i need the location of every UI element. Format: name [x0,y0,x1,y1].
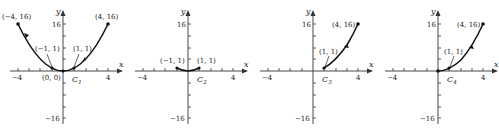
x-axis-arrow-icon [492,69,498,74]
label-4-16: (4, 16) [95,13,119,21]
y-axis-arrow-icon [436,10,441,16]
x-tick-label-4: 4 [481,74,486,82]
point-4-16 [481,22,485,26]
x-tick-label-4: 4 [231,74,236,82]
curve-label-c1: C1 [72,75,82,85]
point-4-16 [356,22,360,26]
label-0-0: (0, 0) [42,74,61,82]
y-axis-label: y [55,7,61,16]
point-neg4-16 [16,22,20,26]
label-1-1: (1, 1) [444,48,463,56]
y-axis-arrow-icon [186,10,191,16]
y-axis-label: y [430,7,436,16]
label-1-1: (1, 1) [197,57,216,65]
curve-label-c4: C4 [447,75,457,85]
y-axis-label: y [180,7,186,16]
y-tick-label-16: 16 [427,21,436,29]
y-tick-label-neg16: −16 [420,115,435,123]
plot-c1: x y −4 4 16 −16 (−4, 16) (4, 16) (−1, 1)… [0,0,125,129]
y-tick-label-neg16: −16 [295,115,310,123]
label-1-1: (1, 1) [319,48,338,56]
point-0-0 [62,70,65,73]
plot-c4: x y −4 4 16 −16 (1, 1) (4, 16) C4 [375,0,499,129]
plot-c2: x y −4 4 16 −16 (−1, 1) (1, 1) C2 [125,0,250,129]
point-0-0 [436,69,440,73]
figure-four-parabola-panels: x y −4 4 16 −16 (−4, 16) (4, 16) (−1, 1)… [0,0,499,129]
label-neg1-1: (−1, 1) [35,45,60,53]
y-tick-label-neg16: −16 [45,115,60,123]
y-tick-label-16: 16 [52,21,61,29]
label-1-1: (1, 1) [73,45,92,53]
y-axis-arrow-icon [61,10,66,16]
point-1-1 [197,66,200,69]
x-tick-label-neg4: −4 [262,74,273,82]
label-neg1-1: (−1, 1) [160,57,185,65]
y-axis-label: y [305,7,311,16]
curve-label-c2: C2 [197,75,207,85]
x-tick-label-neg4: −4 [137,74,148,82]
plot-c3: x y −4 4 16 −16 (1, 1) (4, 16) C3 [250,0,375,129]
panel-c1: x y −4 4 16 −16 (−4, 16) (4, 16) (−1, 1)… [0,0,125,129]
label-4-16: (4, 16) [332,21,356,29]
y-tick-label-16: 16 [177,21,186,29]
x-axis-arrow-icon [117,69,123,74]
x-tick-label-4: 4 [106,74,111,82]
x-axis-label: x [119,60,124,69]
panel-c4: x y −4 4 16 −16 (1, 1) (4, 16) C4 [375,0,499,129]
x-axis-arrow-icon [242,69,248,74]
y-tick-label-16: 16 [302,21,311,29]
panel-c3: x y −4 4 16 −16 (1, 1) (4, 16) C3 [250,0,375,129]
point-4-16 [106,22,110,26]
x-tick-label-neg4: −4 [12,74,23,82]
panel-c2: x y −4 4 16 −16 (−1, 1) (1, 1) C2 [125,0,250,129]
label-neg4-16: (−4, 16) [2,13,31,21]
curve-c3 [324,24,358,68]
x-axis-label: x [369,60,374,69]
label-4-16: (4, 16) [457,21,481,29]
curve-label-c3: C3 [322,75,332,85]
point-neg1-1 [175,66,178,69]
y-tick-label-neg16: −16 [170,115,185,123]
x-axis-label: x [494,60,499,69]
x-axis-arrow-icon [367,69,373,74]
x-tick-label-neg4: −4 [387,74,398,82]
x-tick-label-4: 4 [356,74,361,82]
x-axis-label: x [244,60,249,69]
y-axis-arrow-icon [311,10,316,16]
